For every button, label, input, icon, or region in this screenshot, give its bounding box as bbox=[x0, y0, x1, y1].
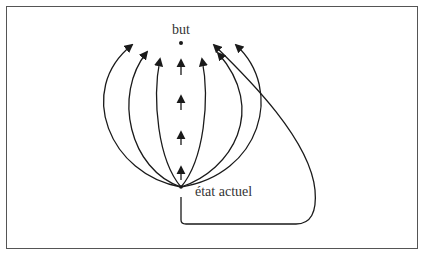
current-state-label: état actuel bbox=[195, 184, 252, 200]
path-right-2 bbox=[181, 53, 242, 187]
goal-label: but bbox=[172, 22, 190, 38]
path-left-1 bbox=[104, 45, 181, 187]
path-right-3 bbox=[181, 59, 205, 187]
path-diagram bbox=[0, 0, 425, 258]
goal-dot bbox=[179, 41, 183, 45]
path-left-3 bbox=[157, 59, 181, 187]
start-dot bbox=[179, 185, 183, 189]
